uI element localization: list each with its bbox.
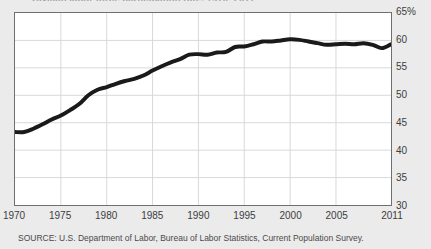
- source-note: SOURCE: U.S. Department of Labor, Bureau…: [18, 233, 364, 243]
- y-axis-tick-label: 40: [396, 146, 407, 156]
- x-axis-tick-label: 2000: [279, 211, 301, 221]
- x-axis-tick-label: 1985: [141, 211, 163, 221]
- chart-title: Civilian labor force participation rate,…: [32, 0, 255, 1]
- x-axis-tick-label: 2011: [381, 211, 403, 221]
- x-axis-tick-label: 1995: [233, 211, 255, 221]
- x-axis-tick-label: 1975: [49, 211, 71, 221]
- y-axis-tick-label: 35: [396, 173, 407, 183]
- y-axis-tick-label: 55: [396, 62, 407, 72]
- x-axis-tick-label: 1990: [187, 211, 209, 221]
- y-axis-tick-label: 45: [396, 118, 407, 128]
- x-axis-tick-label: 1970: [3, 211, 25, 221]
- line-chart-svg: [15, 13, 391, 205]
- y-axis-tick-label: 65%: [396, 7, 416, 17]
- vertical-gridlines: [61, 13, 336, 205]
- x-axis-tick-label: 2005: [326, 211, 348, 221]
- chart-figure: Civilian labor force participation rate,…: [0, 0, 431, 249]
- plot-area: [14, 12, 392, 206]
- x-axis-tick-label: 1980: [95, 211, 117, 221]
- data-series-line: [15, 39, 391, 132]
- y-axis-tick-label: 50: [396, 90, 407, 100]
- y-axis-tick-label: 60: [396, 35, 407, 45]
